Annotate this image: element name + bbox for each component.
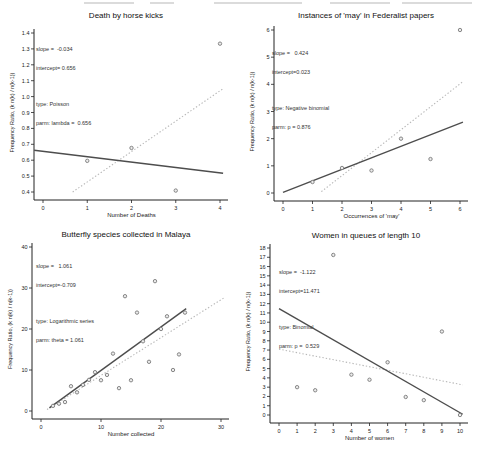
y-tick-label: 18 [259, 245, 265, 251]
data-point [86, 159, 89, 162]
x-tick-label: 0 [281, 206, 284, 212]
y-tick-label: 13 [259, 291, 265, 297]
x-tick-label: 5 [368, 428, 371, 434]
x-tick-label: 3 [370, 206, 373, 212]
data-point [63, 400, 66, 403]
y-tick-label: 1.2 [22, 62, 30, 68]
y-tick-label: 1 [266, 163, 269, 169]
data-point [314, 389, 317, 392]
data-point [177, 353, 180, 356]
y-axis-label: Frequency Ratio, (k n(k) / n(k-1)) [245, 291, 251, 371]
x-tick-label: 1 [311, 206, 314, 212]
data-point [332, 253, 335, 256]
y-tick-label: 4 [266, 81, 269, 87]
chart-panel-women-queues: Women in queues of length 10 slope = -1.… [240, 228, 480, 456]
y-tick-label: 5 [262, 366, 265, 372]
y-tick-label: 12 [259, 301, 265, 307]
data-point [93, 370, 96, 373]
data-point [123, 295, 126, 298]
x-axis-label: Number collected [108, 431, 155, 437]
data-point [105, 373, 108, 376]
data-point [368, 378, 371, 381]
fit-line [34, 150, 223, 173]
data-point [340, 166, 343, 169]
x-axis-label: Occurrences of 'may' [344, 213, 400, 219]
y-tick-label: 14 [259, 282, 265, 288]
reference-dotted-line [321, 82, 463, 192]
data-point [350, 373, 353, 376]
y-tick-label: 16 [259, 264, 265, 270]
data-point [440, 330, 443, 333]
x-tick-label: 10 [98, 424, 104, 430]
data-point [81, 383, 84, 386]
y-tick-label: 0.6 [22, 157, 30, 163]
x-tick-label: 1 [296, 428, 299, 434]
data-point [165, 315, 168, 318]
y-tick-label: 1 [262, 403, 265, 409]
y-tick-label: 1.3 [22, 46, 30, 52]
data-point [404, 395, 407, 398]
x-tick-label: 3 [332, 428, 335, 434]
data-point [51, 404, 54, 407]
y-tick-label: 9 [262, 329, 265, 335]
data-point [183, 311, 186, 314]
y-tick-label: 0 [24, 408, 27, 414]
chart-grid: Death by horse kicks slope = -0.034 inte… [0, 0, 480, 456]
data-point [159, 327, 162, 330]
data-point [111, 352, 114, 355]
fit-line [279, 309, 463, 415]
y-tick-label: 30 [21, 285, 27, 291]
y-tick-label: 10 [21, 367, 27, 373]
y-tick-label: 0 [266, 190, 269, 196]
chart-panel-horse-kicks: Death by horse kicks slope = -0.034 inte… [0, 0, 240, 228]
data-point [130, 146, 133, 149]
y-tick-label: 20 [21, 326, 27, 332]
y-axis-label: Frequency Ratio, (k n(k) / n(k-1)) [7, 289, 13, 369]
data-point [99, 379, 102, 382]
data-point [218, 42, 221, 45]
x-tick-label: 20 [158, 424, 164, 430]
x-tick-label: 8 [422, 428, 425, 434]
y-tick-label: 2 [262, 393, 265, 399]
data-point [117, 386, 120, 389]
y-tick-label: 1.0 [22, 94, 30, 100]
plot-area: 0102030400102030Number collectedFrequenc… [0, 228, 240, 456]
y-axis-label: Frequency Ratio, (k n(k) / n(k-1)) [9, 72, 15, 152]
y-tick-label: 1.4 [22, 30, 30, 36]
data-point [153, 279, 156, 282]
y-tick-label: 3 [262, 384, 265, 390]
x-tick-label: 4 [350, 428, 353, 434]
x-tick-label: 30 [218, 424, 224, 430]
y-tick-label: 8 [262, 338, 265, 344]
x-tick-label: 0 [41, 205, 44, 211]
plot-area: 01234560123456Occurrences of 'may'Freque… [240, 0, 480, 228]
y-tick-label: 40 [21, 244, 27, 250]
data-point [135, 311, 138, 314]
data-point [141, 340, 144, 343]
data-point [69, 385, 72, 388]
data-point [422, 398, 425, 401]
data-point [458, 28, 461, 31]
x-tick-label: 6 [458, 206, 461, 212]
x-tick-label: 1 [86, 205, 89, 211]
y-tick-label: 0 [262, 412, 265, 418]
y-tick-label: 6 [266, 27, 269, 33]
y-tick-label: 2 [266, 136, 269, 142]
y-tick-label: 5 [266, 54, 269, 60]
x-tick-label: 0 [277, 428, 280, 434]
chart-panel-butterfly-species: Butterfly species collected in Malaya sl… [0, 228, 240, 456]
x-tick-label: 2 [340, 206, 343, 212]
data-point [386, 361, 389, 364]
chart-panel-federalist-may: Instances of 'may' in Federalist papers … [240, 0, 480, 228]
data-point [295, 385, 298, 388]
data-point [399, 137, 402, 140]
data-point [174, 189, 177, 192]
y-tick-label: 7 [262, 347, 265, 353]
x-tick-label: 7 [404, 428, 407, 434]
y-tick-label: 3 [266, 109, 269, 115]
y-tick-label: 10 [259, 319, 265, 325]
data-point [75, 391, 78, 394]
data-point [171, 368, 174, 371]
plot-area: 0.40.50.60.70.80.91.01.11.21.31.401234Nu… [0, 0, 240, 228]
y-tick-label: 0.9 [22, 110, 30, 116]
